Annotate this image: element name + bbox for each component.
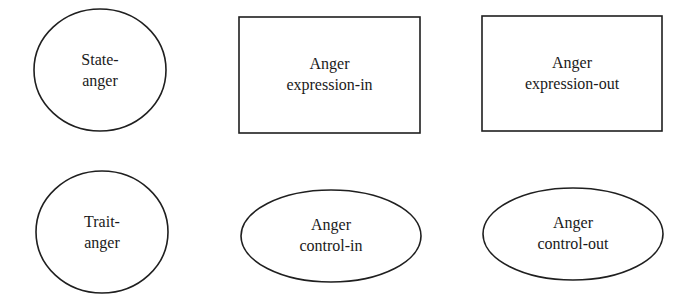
trait-anger-label-line-2: anger [84, 234, 120, 252]
trait-anger-circle [36, 171, 168, 293]
trait-anger-label-line-1: Trait- [84, 213, 120, 230]
anger-control-out-label-line-2: control-out [537, 235, 609, 252]
anger-expression-out-label-line-1: Anger [552, 54, 593, 72]
node-trait-anger: Trait- anger [36, 171, 168, 293]
node-anger-control-in: Anger control-in [241, 190, 421, 282]
node-anger-control-out: Anger control-out [483, 188, 663, 280]
anger-control-in-label-line-1: Anger [311, 216, 352, 234]
anger-constructs-diagram: State- anger Anger expression-in Anger e… [0, 0, 686, 304]
anger-expression-in-label-line-2: expression-in [286, 76, 372, 94]
node-anger-expression-out: Anger expression-out [482, 16, 662, 131]
anger-expression-out-label-line-2: expression-out [525, 75, 620, 93]
anger-expression-in-box [239, 17, 420, 133]
state-anger-label-line-1: State- [81, 51, 118, 68]
node-state-anger: State- anger [34, 9, 166, 131]
anger-control-in-ellipse [241, 190, 421, 282]
anger-control-out-ellipse [483, 188, 663, 280]
anger-expression-in-label-line-1: Anger [310, 55, 351, 73]
anger-expression-out-box [482, 16, 662, 131]
state-anger-circle [34, 9, 166, 131]
anger-control-out-label-line-1: Anger [553, 214, 594, 232]
node-anger-expression-in: Anger expression-in [239, 17, 420, 133]
anger-control-in-label-line-2: control-in [299, 237, 362, 254]
state-anger-label-line-2: anger [82, 72, 118, 90]
